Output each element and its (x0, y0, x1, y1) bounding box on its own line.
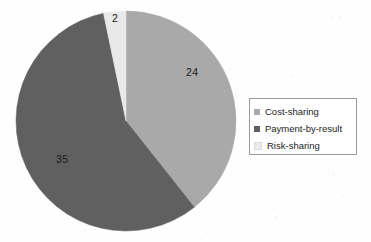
chart-legend: Cost-sharing Payment-by-result Risk-shar… (249, 98, 357, 155)
legend-item-risk-sharing: Risk-sharing (254, 138, 356, 154)
legend-label-risk-sharing: Risk-sharing (267, 141, 320, 151)
pie-chart-figure: 24 35 2 Cost-sharing Payment-by-result R… (0, 0, 371, 242)
slice-value-label-risk-sharing: 2 (112, 12, 118, 24)
slice-value-label-cost-sharing: 24 (186, 66, 198, 78)
legend-swatch-cost-sharing (254, 109, 260, 115)
legend-swatch-risk-sharing (254, 142, 262, 150)
legend-swatch-payment-by-result (254, 126, 260, 132)
legend-item-payment-by-result: Payment-by-result (254, 121, 356, 137)
slice-value-label-payment-by-result: 35 (56, 153, 68, 165)
legend-label-cost-sharing: Cost-sharing (265, 107, 319, 117)
legend-label-payment-by-result: Payment-by-result (265, 124, 342, 134)
legend-item-cost-sharing: Cost-sharing (254, 104, 356, 120)
